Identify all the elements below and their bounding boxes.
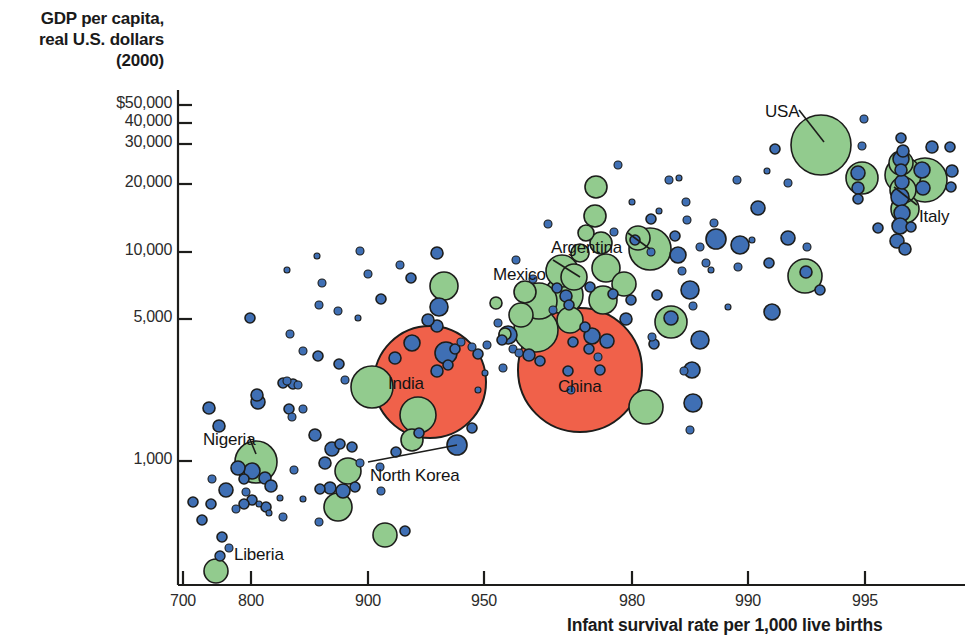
data-point [219,483,233,497]
data-point [681,281,699,299]
data-point [563,366,573,376]
data-point [315,301,323,309]
data-point [708,267,714,273]
data-point [315,484,325,494]
data-point [334,359,344,369]
data-point [430,298,448,316]
x-tick-label: 995 [825,592,905,610]
data-point [414,428,424,438]
data-point [277,495,283,501]
data-point [309,429,321,441]
data-point [364,270,372,278]
data-point [299,405,307,413]
data-point [770,144,780,154]
data-point [482,370,488,376]
data-point [734,263,742,271]
data-point [351,366,393,408]
data-point [355,315,361,321]
data-point [629,199,635,205]
y-tick-label: 1,000 [60,450,172,468]
data-point [610,228,618,236]
data-point [702,259,710,267]
data-point [335,439,345,449]
data-point [319,457,331,469]
bubble-label-india: India [388,374,425,393]
data-point [858,142,866,150]
data-point [431,365,443,377]
data-point [764,304,780,320]
x-tick-label: 950 [444,592,524,610]
y-tick-label: $50,000 [60,94,172,112]
data-point [800,266,812,278]
data-point [468,343,476,351]
data-point [225,544,233,552]
bubble-liberia [215,551,225,561]
x-tick-label: 800 [211,592,291,610]
data-point [284,267,290,273]
x-tick-label: 900 [328,592,408,610]
data-point [926,141,938,153]
data-point [231,461,245,475]
data-point [265,480,277,492]
data-point [239,499,249,509]
data-point [422,314,434,326]
data-point [377,487,385,495]
y-tick-label: 30,000 [60,133,172,151]
inline-bubble-labels: IndiaChina [388,374,602,396]
data-point [535,356,545,366]
data-point [946,182,956,192]
data-point [691,331,709,349]
data-point [860,115,868,123]
chart-canvas: IndiaChina GDP per capita, real U.S. dol… [0,0,971,641]
data-point [294,381,302,389]
y-tick-label: 10,000 [60,241,172,259]
data-point [620,313,632,325]
data-point [594,353,602,361]
annotation-usa: USA [765,102,799,122]
data-point [549,306,557,314]
y-axis-title: GDP per capita, real U.S. dollars (2000) [4,8,164,71]
data-point [595,365,605,375]
data-point [784,179,792,187]
data-point [206,499,216,509]
data-point [680,367,688,375]
data-point [896,133,906,143]
data-point [664,311,678,325]
data-point [483,341,491,349]
data-point [315,518,323,526]
data-point [710,219,718,227]
data-point [682,198,690,206]
data-point [373,523,397,547]
data-point [430,272,458,300]
data-point [899,243,911,255]
data-point [204,559,228,583]
data-point [334,307,342,315]
data-point [376,294,386,304]
data-point [494,319,502,327]
data-point [670,231,680,241]
annotation-north-korea: North Korea [370,466,459,486]
data-point [676,175,682,181]
data-point [242,488,250,496]
data-point [781,231,795,245]
data-point [906,222,916,232]
data-point [356,247,364,255]
data-point [313,351,323,361]
data-point [851,166,865,180]
x-tick-label: 980 [592,592,672,610]
data-point [815,285,825,295]
data-point [515,349,523,357]
data-point [648,333,656,341]
x-tick-label: 990 [708,592,788,610]
data-point [324,482,336,494]
data-point [600,334,614,348]
data-point [646,214,656,224]
data-point [523,349,535,361]
data-point [299,347,307,355]
data-point [614,161,622,169]
data-point [647,248,655,256]
data-point [300,496,306,502]
data-point [288,413,296,421]
data-point [608,289,618,299]
data-point [568,337,578,347]
